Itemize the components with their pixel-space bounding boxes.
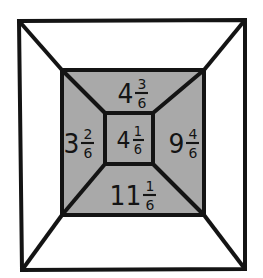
diagonal-top-left: [19, 21, 62, 70]
diagonal-bottom-left: [22, 215, 62, 270]
figure-canvas: 4 3 6 3 2 6 4 1 6 9 4 6 11: [0, 0, 263, 278]
diagonal-bottom-right: [204, 215, 245, 269]
nested-squares-diagram: [0, 0, 263, 278]
diagonal-top-right: [204, 20, 245, 70]
inner-square-fill: [105, 113, 153, 164]
